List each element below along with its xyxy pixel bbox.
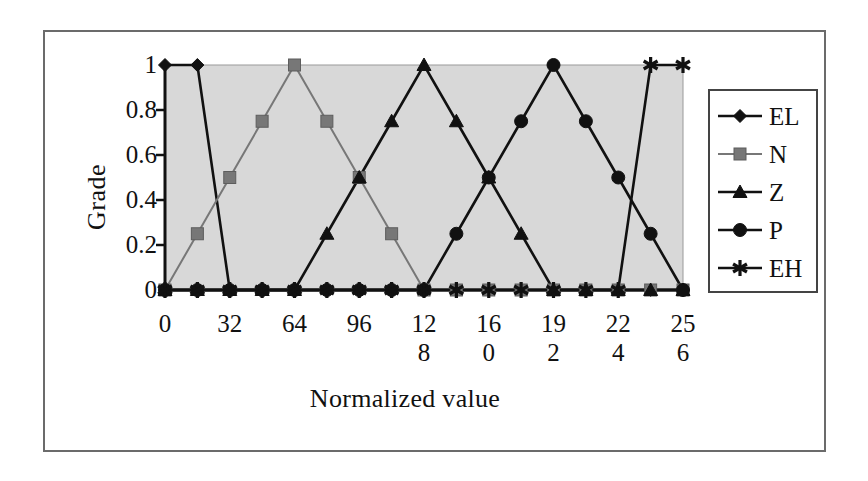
legend-item-z[interactable]: Z [710, 173, 816, 211]
x-tick-label-line1: 96 [329, 310, 389, 339]
legend-label: EH [769, 256, 802, 281]
x-tick-label: 160 [459, 310, 519, 368]
legend-label: N [769, 142, 787, 167]
legend-item-n[interactable]: N [710, 135, 816, 173]
x-tick-label-line1: 12 [394, 310, 454, 339]
legend-label: P [769, 218, 783, 243]
x-tick-label-line2: 4 [588, 339, 648, 368]
x-tick-label-line1: 16 [459, 310, 519, 339]
legend-item-p[interactable]: P [710, 211, 816, 249]
x-tick-label-line2: 2 [524, 339, 584, 368]
chart-legend: ELNZPEH [708, 89, 818, 293]
legend-label: EL [769, 104, 800, 129]
asterisk-marker [716, 257, 764, 279]
x-tick-label: 96 [329, 310, 389, 339]
x-tick-label-line1: 25 [653, 310, 713, 339]
x-tick-label-line1: 19 [524, 310, 584, 339]
legend-item-el[interactable]: EL [710, 97, 816, 135]
legend-item-eh[interactable]: EH [710, 249, 816, 287]
diamond-marker [716, 105, 764, 127]
circle-marker [716, 219, 764, 241]
figure-frame: 00.20.40.60.81 0326496128160192224256 Gr… [43, 30, 826, 452]
x-tick-label: 224 [588, 310, 648, 368]
x-tick-label-line2: 6 [653, 339, 713, 368]
x-tick-label: 32 [200, 310, 260, 339]
square-marker [716, 143, 764, 165]
x-tick-label: 128 [394, 310, 454, 368]
chart-area: 00.20.40.60.81 0326496128160192224256 Gr… [45, 32, 828, 454]
x-tick-label-line1: 22 [588, 310, 648, 339]
triangle-marker [716, 181, 764, 203]
x-tick-label: 256 [653, 310, 713, 368]
x-tick-label: 0 [135, 310, 195, 339]
x-tick-label-line1: 0 [135, 310, 195, 339]
x-axis-title: Normalized value [165, 384, 645, 414]
x-tick-label-line1: 64 [265, 310, 325, 339]
x-tick-label-line2: 0 [459, 339, 519, 368]
x-tick-label-line1: 32 [200, 310, 260, 339]
y-axis-title: Grade [82, 137, 112, 257]
x-tick-label: 192 [524, 310, 584, 368]
x-tick-label: 64 [265, 310, 325, 339]
x-tick-label-line2: 8 [394, 339, 454, 368]
legend-label: Z [769, 180, 784, 205]
